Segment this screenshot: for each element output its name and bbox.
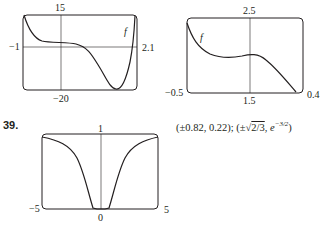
plot-3-frame bbox=[42, 134, 158, 209]
plot-2-curve bbox=[187, 23, 296, 92]
plot-2-bottom-label: 1.5 bbox=[243, 96, 256, 106]
figure-canvas bbox=[0, 0, 324, 235]
answer-text-1: (±0.82, 0.22); (± bbox=[176, 122, 246, 133]
answer-exponent: −3/2 bbox=[275, 120, 289, 128]
answer-sqrt-arg: 2/3 bbox=[251, 122, 264, 133]
plot-1-frame bbox=[23, 15, 137, 90]
plot-1-curve-label: f bbox=[124, 26, 127, 37]
problem-number: 39. bbox=[3, 119, 18, 131]
plot-2-left-label: −0.5 bbox=[165, 88, 183, 98]
plot-1-curve bbox=[24, 15, 135, 89]
plot-2-right-label: 0.4 bbox=[307, 90, 320, 100]
plot-1-left-label: −1 bbox=[9, 42, 20, 52]
plot-2-top-label: 2.5 bbox=[243, 6, 256, 16]
answer-close-paren: ) bbox=[288, 122, 292, 133]
plot-3-curve bbox=[42, 137, 158, 209]
plot-1-bottom-label: −20 bbox=[53, 94, 69, 104]
plot-2 bbox=[187, 18, 303, 93]
plot-3-top-label: 1 bbox=[98, 124, 103, 134]
plot-1 bbox=[23, 15, 137, 90]
plot-3-right-label: 5 bbox=[164, 205, 169, 215]
critical-points-answer: (±0.82, 0.22); (±√2/3, e−3/2) bbox=[176, 120, 292, 133]
plot-3 bbox=[42, 134, 158, 209]
plot-2-curve-label: f bbox=[200, 32, 203, 43]
plot-1-right-label: 2.1 bbox=[142, 43, 155, 53]
plot-3-left-label: −5 bbox=[29, 204, 40, 214]
plot-3-bottom-label: 0 bbox=[98, 213, 103, 223]
plot-1-top-label: 15 bbox=[55, 3, 65, 13]
